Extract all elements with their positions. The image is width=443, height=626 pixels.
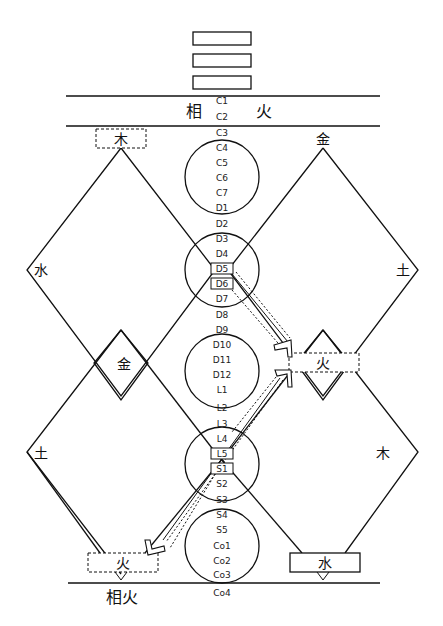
spine-label: L4	[217, 434, 228, 444]
spine-label: S3	[216, 495, 227, 505]
spine-label: C7	[216, 188, 228, 198]
spine-label: Co3	[213, 570, 231, 580]
diamond-lower-left-bottom	[27, 452, 100, 553]
spine-label: C2	[216, 112, 228, 122]
spine-label: D7	[216, 294, 229, 304]
five-elements-diagram: 相 火 相火 木 金 水 土 金 火 土 木	[0, 0, 443, 626]
element-top-right: 金	[316, 131, 330, 147]
spine-label: C5	[216, 158, 228, 168]
element-bottom-right: 水	[318, 555, 332, 571]
spine-label: C6	[216, 173, 228, 183]
spine-label: S2	[216, 479, 227, 489]
spine-label: D10	[213, 340, 232, 350]
spine-label: D12	[213, 370, 231, 380]
spine-label: D5	[216, 264, 229, 274]
header-left-label: 相	[186, 102, 202, 121]
spine-label: Co1	[213, 541, 231, 551]
element-left-upper: 水	[34, 262, 48, 278]
spine-label: D2	[216, 219, 229, 229]
spine-label: Co4	[213, 588, 231, 598]
spine-label: C1	[216, 96, 228, 106]
spine-label: Co2	[213, 556, 231, 566]
spine-label: D3	[216, 234, 229, 244]
spine-label: L3	[217, 419, 228, 429]
spine-label: D1	[216, 203, 229, 213]
spine-label: C3	[216, 128, 228, 138]
spine-label: D11	[213, 355, 231, 365]
spine-labels: C1C2C3C4C5C6C7D1D2D3D4D5D6D7D8D9D10D11D1…	[211, 96, 233, 598]
spine-label: L2	[217, 403, 228, 413]
spine-label: D8	[216, 310, 229, 320]
arrowhead-up-right	[275, 370, 292, 387]
spine-label: L5	[217, 449, 228, 459]
spine-label: D9	[216, 325, 229, 335]
element-right-upper: 土	[396, 262, 410, 278]
spine-label: C4	[216, 143, 228, 153]
footer-label: 相火	[106, 588, 138, 607]
element-bottom-left: 火	[116, 555, 130, 571]
spine-label: D6	[216, 279, 229, 289]
element-top-left: 木	[114, 131, 128, 147]
element-right-small: 火	[316, 355, 330, 371]
arrowhead-down-left	[145, 540, 165, 555]
element-center-small: 金	[117, 356, 131, 372]
spine-label: S4	[216, 510, 228, 520]
spine-label: S5	[216, 525, 227, 535]
element-left-lower: 土	[34, 445, 48, 461]
spine-label: L1	[217, 385, 228, 395]
spine-label: D4	[216, 249, 229, 259]
bottom-right-pointer	[317, 572, 329, 580]
arrowhead-down-right	[274, 340, 292, 357]
header-right-label: 火	[256, 102, 272, 121]
element-right-lower: 木	[376, 445, 390, 461]
spine-label: S1	[216, 464, 227, 474]
arrow-d5-line	[232, 274, 288, 342]
trigram-icon	[193, 32, 251, 89]
diamond-lower-left-right	[121, 330, 215, 452]
